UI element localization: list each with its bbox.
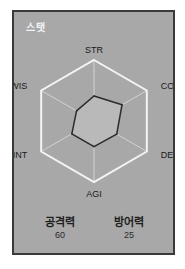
radar-chart: STRCONDEXAGIINTWIS xyxy=(14,12,173,212)
radar-point-int xyxy=(71,133,73,135)
radar-point-agi xyxy=(93,146,95,148)
axis-label-int: INT xyxy=(14,150,28,160)
radar-point-dex xyxy=(116,133,118,135)
axis-label-str: STR xyxy=(85,45,104,55)
stats-panel: 스탯 STRCONDEXAGIINTWIS 공격력 60 방어력 25 xyxy=(12,10,175,255)
radar-point-str xyxy=(93,95,95,97)
radar-data xyxy=(71,95,123,147)
attack-label: 공격력 xyxy=(35,216,85,230)
radar-point-con xyxy=(121,104,123,106)
axis-label-wis: WIS xyxy=(14,81,27,91)
defense-label: 방어력 xyxy=(104,216,154,230)
defense-value: 25 xyxy=(104,230,154,241)
attack-value: 60 xyxy=(35,230,85,241)
radar-point-wis xyxy=(76,110,78,112)
axis-label-agi: AGI xyxy=(86,189,102,199)
radar-data-polygon xyxy=(72,96,122,147)
axis-label-con: CON xyxy=(161,81,173,91)
axis-label-dex: DEX xyxy=(161,150,173,160)
attack-stat: 공격력 60 xyxy=(35,216,85,241)
defense-stat: 방어력 25 xyxy=(104,216,154,241)
